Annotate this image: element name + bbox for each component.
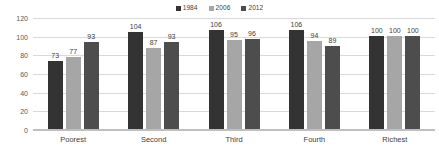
- bar-slot: 100: [369, 18, 384, 129]
- bar-slot: 100: [387, 18, 402, 129]
- x-axis-labels: PoorestSecondThirdFourthRichest: [33, 136, 435, 150]
- bar[interactable]: [369, 36, 384, 129]
- bar[interactable]: [245, 39, 260, 129]
- bar-slot: 100: [405, 18, 420, 129]
- bar-slot: 106: [209, 18, 224, 129]
- bar[interactable]: [325, 46, 340, 129]
- legend-label: 2006: [216, 5, 231, 12]
- bar-slot: 87: [146, 18, 161, 129]
- legend-label: 2012: [248, 5, 263, 12]
- x-axis-category-label: Third: [194, 136, 274, 150]
- y-axis-tick-label: 120: [16, 15, 28, 22]
- y-axis-tick-label: 20: [20, 108, 28, 115]
- legend-item-2006[interactable]: 2006: [209, 5, 231, 12]
- bar-value-label: 106: [210, 21, 222, 28]
- bar[interactable]: [84, 42, 99, 129]
- bar-group: 1069489: [274, 18, 354, 129]
- legend-item-1984[interactable]: 1984: [176, 5, 198, 12]
- bar-slot: 94: [307, 18, 322, 129]
- bar-value-label: 89: [329, 37, 337, 44]
- bar[interactable]: [128, 32, 143, 129]
- bar-value-label: 93: [168, 33, 176, 40]
- bar-slot: 104: [128, 18, 143, 129]
- bar-slot: 106: [289, 18, 304, 129]
- bar-slot: 96: [245, 18, 260, 129]
- bar-value-label: 106: [291, 21, 303, 28]
- bar-groups: 737793104879310695961069489100100100: [33, 18, 435, 129]
- bar-group: 1069596: [194, 18, 274, 129]
- bar-chart: 1984 2006 2012 120100806040200 737793104…: [0, 0, 439, 163]
- bar[interactable]: [209, 30, 224, 129]
- bar[interactable]: [66, 57, 81, 129]
- bar-value-label: 96: [248, 30, 256, 37]
- bar[interactable]: [146, 48, 161, 129]
- bar-value-label: 87: [150, 39, 158, 46]
- bar[interactable]: [387, 36, 402, 129]
- x-axis-category-label: Poorest: [33, 136, 113, 150]
- bar-slot: 89: [325, 18, 340, 129]
- bar-slot: 93: [84, 18, 99, 129]
- bar-slot: 95: [227, 18, 242, 129]
- bar[interactable]: [289, 30, 304, 129]
- legend-swatch-icon: [176, 6, 181, 11]
- bar-slot: 73: [48, 18, 63, 129]
- y-axis-tick-label: 40: [20, 89, 28, 96]
- y-axis: 120100806040200: [0, 18, 31, 130]
- legend-swatch-icon: [209, 6, 214, 11]
- plot-area: 737793104879310695961069489100100100: [33, 18, 435, 130]
- legend-swatch-icon: [241, 6, 246, 11]
- y-axis-tick-label: 60: [20, 71, 28, 78]
- bar-value-label: 100: [407, 27, 419, 34]
- legend-label: 1984: [183, 5, 198, 12]
- x-axis-line: [33, 129, 435, 130]
- x-axis-category-label: Richest: [355, 136, 435, 150]
- bar[interactable]: [164, 42, 179, 129]
- bar-value-label: 77: [69, 48, 77, 55]
- plot-wrapper: 120100806040200 737793104879310695961069…: [0, 18, 439, 163]
- gridline: [33, 130, 435, 131]
- y-axis-tick-label: 0: [24, 127, 28, 134]
- bar-group: 100100100: [355, 18, 435, 129]
- bar-slot: 77: [66, 18, 81, 129]
- bar-value-label: 100: [389, 27, 401, 34]
- x-axis-category-label: Second: [113, 136, 193, 150]
- chart-legend: 1984 2006 2012: [0, 2, 439, 14]
- y-axis-tick-label: 80: [20, 52, 28, 59]
- bar-value-label: 73: [51, 52, 59, 59]
- bar-value-label: 104: [130, 23, 142, 30]
- x-axis-category-label: Fourth: [274, 136, 354, 150]
- bar[interactable]: [227, 40, 242, 129]
- bar-value-label: 95: [230, 31, 238, 38]
- bar-value-label: 100: [371, 27, 383, 34]
- y-axis-tick-label: 100: [16, 33, 28, 40]
- legend-item-2012[interactable]: 2012: [241, 5, 263, 12]
- bar-value-label: 93: [87, 33, 95, 40]
- bar-group: 737793: [33, 18, 113, 129]
- bar[interactable]: [48, 61, 63, 129]
- bar-value-label: 94: [311, 32, 319, 39]
- bar-slot: 93: [164, 18, 179, 129]
- bar[interactable]: [405, 36, 420, 129]
- bar-group: 1048793: [113, 18, 193, 129]
- bar[interactable]: [307, 41, 322, 129]
